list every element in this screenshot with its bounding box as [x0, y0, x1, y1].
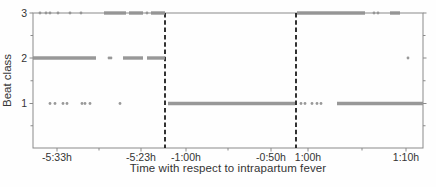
beat-class-point — [45, 12, 48, 15]
beat-class-point — [300, 102, 303, 105]
beat-class-point — [377, 12, 380, 15]
x-axis-label: Time with respect to intrapartum fever — [33, 162, 423, 174]
axes-box — [33, 13, 423, 148]
beat-class-point — [89, 102, 92, 105]
y-tick-label: 1 — [21, 97, 27, 109]
beat-class-point — [39, 12, 42, 15]
y-tick-label: 3 — [21, 7, 27, 19]
beat-class-point — [81, 102, 84, 105]
beat-class-point — [304, 102, 307, 105]
beat-class-point — [84, 102, 87, 105]
beat-class-point — [110, 57, 113, 60]
beat-class-point — [49, 102, 52, 105]
beat-class-point — [119, 102, 122, 105]
beat-class-point — [316, 102, 319, 105]
beat-class-point — [373, 12, 376, 15]
beat-class-point — [69, 12, 72, 15]
beat-class-point — [146, 12, 149, 15]
beat-class-figure: -5:33h-5:23h-1:00h-0:50h1:00h1:10h321 Ti… — [0, 0, 436, 187]
y-axis-label: Beat class — [1, 21, 16, 141]
chart-canvas: -5:33h-5:23h-1:00h-0:50h1:00h1:10h321 — [0, 0, 436, 187]
beat-class-point — [57, 12, 60, 15]
beat-class-point — [407, 57, 410, 60]
beat-class-point — [62, 102, 65, 105]
beat-class-point — [311, 102, 314, 105]
beat-class-point — [66, 102, 69, 105]
beat-class-point — [80, 12, 83, 15]
beat-class-point — [49, 12, 52, 15]
beat-class-point — [320, 102, 323, 105]
y-tick-label: 2 — [21, 52, 27, 64]
beat-class-point — [54, 102, 57, 105]
